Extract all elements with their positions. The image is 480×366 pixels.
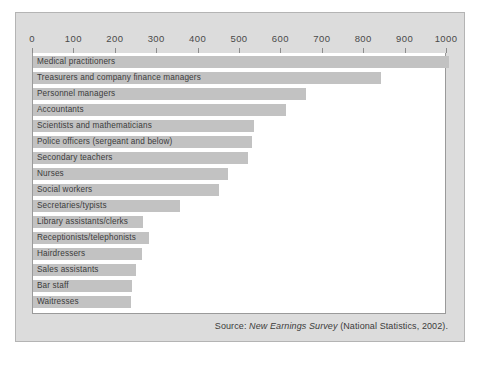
- plot-area: Medical practitionersTreasurers and comp…: [32, 53, 446, 314]
- source-note: Source: New Earnings Survey (National St…: [215, 321, 448, 331]
- bar-row: Social workers: [33, 184, 445, 200]
- bar-category-label: Sales assistants: [37, 264, 99, 276]
- bar-series: Medical practitionersTreasurers and comp…: [33, 56, 445, 313]
- chart-figure: 01002003004005006007008009001000 Medical…: [15, 12, 465, 342]
- bar-category-label: Police officers (sergeant and below): [37, 136, 172, 148]
- bar-row: Library assistants/clerks: [33, 216, 445, 232]
- x-axis-tick-label: 0: [29, 33, 35, 44]
- source-suffix: (National Statistics, 2002).: [338, 321, 448, 331]
- bar-category-label: Treasurers and company finance managers: [37, 72, 201, 84]
- bar-row: Hairdressers: [33, 248, 445, 264]
- bar-row: Secondary teachers: [33, 152, 445, 168]
- x-axis-tick-label: 900: [396, 33, 413, 44]
- source-prefix: Source:: [215, 321, 249, 331]
- bar-row: Scientists and mathematicians: [33, 120, 445, 136]
- bar-category-label: Secondary teachers: [37, 152, 113, 164]
- bar-category-label: Waitresses: [37, 296, 79, 308]
- bar-category-label: Library assistants/clerks: [37, 216, 128, 228]
- x-axis-tick-label: 800: [355, 33, 372, 44]
- bar-category-label: Nurses: [37, 168, 64, 180]
- x-axis-tick-label: 600: [272, 33, 289, 44]
- bar-category-label: Hairdressers: [37, 248, 85, 260]
- bar-row: Secretaries/typists: [33, 200, 445, 216]
- bar-category-label: Personnel managers: [37, 88, 115, 100]
- bar-row: Accountants: [33, 104, 445, 120]
- x-axis-tick-label: 400: [189, 33, 206, 44]
- bar-category-label: Accountants: [37, 104, 84, 116]
- bar-category-label: Medical practitioners: [37, 56, 115, 68]
- bar-row: Waitresses: [33, 296, 445, 312]
- bar-row: Nurses: [33, 168, 445, 184]
- x-axis: 01002003004005006007008009001000: [32, 25, 446, 53]
- bar-category-label: Receptionists/telephonists: [37, 232, 136, 244]
- bar-category-label: Scientists and mathematicians: [37, 120, 152, 132]
- bar-row: Receptionists/telephonists: [33, 232, 445, 248]
- bar-row: Bar staff: [33, 280, 445, 296]
- x-axis-tick-label: 1000: [435, 33, 458, 44]
- x-axis-tick-label: 700: [313, 33, 330, 44]
- x-axis-tick-label: 200: [106, 33, 123, 44]
- x-axis-tick-mark: [446, 48, 447, 53]
- bar-category-label: Bar staff: [37, 280, 69, 292]
- bar-category-label: Secretaries/typists: [37, 200, 107, 212]
- x-axis-tick-label: 500: [230, 33, 247, 44]
- bar-row: Medical practitioners: [33, 56, 445, 72]
- x-axis-tick-label: 300: [148, 33, 165, 44]
- bar-row: Treasurers and company finance managers: [33, 72, 445, 88]
- bar-row: Police officers (sergeant and below): [33, 136, 445, 152]
- x-axis-tick-label: 100: [65, 33, 82, 44]
- bar-row: Personnel managers: [33, 88, 445, 104]
- bar-category-label: Social workers: [37, 184, 92, 196]
- bar-row: Sales assistants: [33, 264, 445, 280]
- source-publication: New Earnings Survey: [249, 321, 337, 331]
